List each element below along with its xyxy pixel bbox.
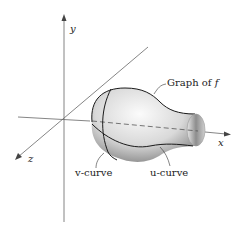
x-axis-front: x <box>205 132 231 149</box>
x-axis-label: x <box>218 137 224 148</box>
v-curve-label: v-curve <box>74 167 112 178</box>
graph-of-f-label: Graph of f <box>167 77 221 88</box>
graph-label-text: Graph of <box>167 77 215 88</box>
arrow-right-icon <box>224 132 231 137</box>
surface-diagram: y z x Graph of f v-curve u-curve <box>0 0 243 232</box>
graph-label-f: f <box>214 77 221 88</box>
u-curve-label: u-curve <box>150 167 188 178</box>
z-axis-label: z <box>27 153 34 164</box>
y-axis-label: y <box>69 23 76 34</box>
x-axis <box>18 117 90 121</box>
arrow-up-icon <box>62 14 67 21</box>
graph-surface <box>92 88 205 162</box>
